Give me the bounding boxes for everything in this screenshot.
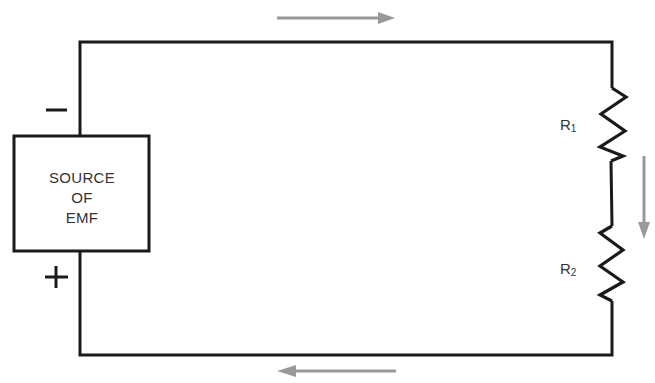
- wire-top-path: [80, 42, 612, 135]
- plus-sign-icon: [45, 266, 68, 288]
- emf-source-label: SOURCE OF EMF: [14, 168, 150, 228]
- wire-middle-right: [611, 161, 612, 226]
- circuit-wires: [80, 42, 612, 355]
- resistor-r1-icon: [600, 88, 626, 161]
- resistor-r2-label: R2: [560, 260, 576, 278]
- resistor-r1-label: R1: [560, 116, 576, 134]
- resistor-r2-icon: [600, 226, 623, 301]
- source-label-line-1: SOURCE: [14, 168, 150, 188]
- current-arrow-top: [277, 12, 395, 24]
- r1-subscript: 1: [571, 123, 577, 134]
- current-arrow-bottom: [277, 365, 396, 377]
- current-arrow-right: [638, 156, 650, 239]
- wire-bottom-path: [80, 251, 612, 355]
- r2-subscript: 2: [571, 267, 577, 278]
- r1-name: R: [560, 116, 571, 133]
- source-label-line-3: EMF: [14, 208, 150, 228]
- source-label-line-2: OF: [14, 188, 150, 208]
- r2-name: R: [560, 260, 571, 277]
